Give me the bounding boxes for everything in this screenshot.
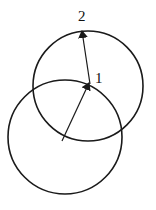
arrow-to-point-1 — [62, 83, 89, 141]
diagram-svg — [0, 0, 156, 210]
arrow-to-point-2 — [82, 31, 90, 84]
label-point-1: 1 — [95, 71, 103, 86]
lower-circle — [8, 80, 122, 194]
label-point-2: 2 — [78, 9, 86, 24]
diagram-canvas: 2 1 — [0, 0, 156, 210]
